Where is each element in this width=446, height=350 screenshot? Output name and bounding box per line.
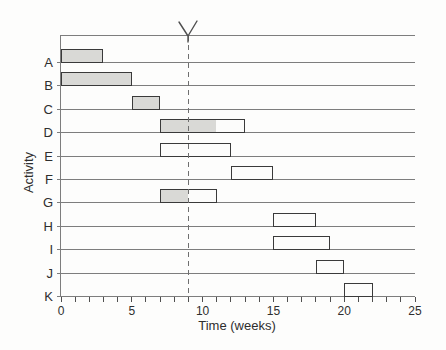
activity-row-line xyxy=(57,109,415,110)
activity-label: K xyxy=(33,289,53,305)
activity-label: E xyxy=(33,149,53,165)
x-axis-tick xyxy=(259,297,260,302)
activity-label: A xyxy=(33,55,53,71)
x-axis-tick xyxy=(145,297,146,302)
x-axis-tick xyxy=(160,297,161,302)
gantt-bar-C xyxy=(132,96,160,110)
x-axis-tick xyxy=(117,297,118,302)
gantt-bar-E xyxy=(160,143,231,157)
x-axis-tick xyxy=(344,297,345,302)
activity-row-line xyxy=(57,202,415,203)
gantt-bar-fill xyxy=(62,73,131,85)
x-axis-tick xyxy=(273,297,274,302)
activity-label: H xyxy=(33,219,53,235)
activity-row-line xyxy=(57,156,415,157)
x-axis-tick-label: 15 xyxy=(258,304,288,318)
gantt-bar-B xyxy=(61,72,132,86)
gantt-bar-fill xyxy=(133,97,159,109)
x-axis-tick xyxy=(315,297,316,302)
x-axis-tick xyxy=(301,297,302,302)
x-axis-tick-label: 5 xyxy=(117,304,147,318)
time-now-line xyxy=(188,36,189,297)
activity-label: F xyxy=(33,172,53,188)
x-axis-title: Time (weeks) xyxy=(60,318,414,333)
x-axis-tick xyxy=(89,297,90,302)
x-axis-tick xyxy=(386,297,387,302)
activity-row-line xyxy=(57,226,415,227)
x-axis-tick xyxy=(216,297,217,302)
activity-row-line xyxy=(57,249,415,250)
x-axis-tick xyxy=(372,297,373,302)
x-axis-tick xyxy=(202,297,203,302)
activity-label: C xyxy=(33,102,53,118)
x-axis-tick-label: 25 xyxy=(400,304,430,318)
x-axis-tick xyxy=(174,297,175,302)
gantt-figure: Activity ABCDEFGHIJK0510152025 Time (wee… xyxy=(0,0,446,350)
gantt-bar-F xyxy=(231,166,273,180)
gantt-bar-fill xyxy=(62,50,102,62)
x-axis-tick xyxy=(245,297,246,302)
x-axis-tick xyxy=(330,297,331,302)
x-axis-tick xyxy=(358,297,359,302)
gantt-bar-I xyxy=(273,236,330,250)
gantt-bar-A xyxy=(61,49,103,63)
x-axis-tick-label: 20 xyxy=(329,304,359,318)
x-axis-tick-label: 10 xyxy=(188,304,218,318)
gantt-bar-D xyxy=(160,119,245,133)
activity-label: J xyxy=(33,266,53,282)
activity-label: I xyxy=(33,242,53,258)
x-axis-tick xyxy=(61,297,62,302)
time-now-marker-icon xyxy=(175,19,201,43)
gantt-bar-J xyxy=(316,260,344,274)
x-axis-tick xyxy=(188,297,189,302)
activity-row-line xyxy=(57,273,415,274)
x-axis-tick xyxy=(131,297,132,302)
activity-label: B xyxy=(33,78,53,94)
x-axis-tick xyxy=(75,297,76,302)
activity-label: D xyxy=(33,125,53,141)
x-axis-tick-label: 0 xyxy=(46,304,76,318)
plot-area: ABCDEFGHIJK0510152025 xyxy=(60,35,415,297)
activity-row-line xyxy=(57,62,415,63)
x-axis-tick xyxy=(287,297,288,302)
x-axis-tick xyxy=(400,297,401,302)
gantt-bar-fill xyxy=(161,190,188,202)
activity-label: G xyxy=(33,195,53,211)
x-axis-tick xyxy=(230,297,231,302)
x-axis-tick xyxy=(415,297,416,302)
x-axis-tick xyxy=(103,297,104,302)
gantt-bar-H xyxy=(273,213,315,227)
gantt-bar-K xyxy=(344,283,372,297)
